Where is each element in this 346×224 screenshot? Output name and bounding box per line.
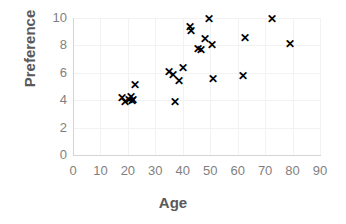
x-tick-label: 10: [87, 164, 113, 178]
data-point-marker: ✕: [266, 14, 277, 25]
gridline-horizontal: [73, 73, 320, 74]
data-point-marker: ✕: [177, 63, 188, 74]
data-point-marker: ✕: [173, 76, 184, 87]
x-tick-label: 50: [197, 164, 223, 178]
x-axis-line: [73, 155, 321, 156]
y-tick-label: 0: [45, 148, 67, 162]
x-tick-label: 40: [170, 164, 196, 178]
y-axis-title: Preference: [21, 0, 38, 99]
data-point-marker: ✕: [238, 71, 249, 82]
plot-area: [73, 18, 320, 155]
scatter-chart: Preference Age 0246810010203040506070809…: [0, 0, 346, 224]
x-tick-label: 0: [60, 164, 86, 178]
data-point-marker: ✕: [128, 95, 139, 106]
gridline-vertical: [320, 18, 321, 155]
x-axis-title: Age: [0, 194, 346, 211]
x-tick-label: 90: [307, 164, 333, 178]
data-point-marker: ✕: [129, 80, 140, 91]
y-tick-label: 6: [45, 66, 67, 80]
x-tick-label: 20: [115, 164, 141, 178]
data-point-marker: ✕: [284, 39, 295, 50]
x-tick-label: 60: [225, 164, 251, 178]
data-point-marker: ✕: [206, 40, 217, 51]
x-tick-label: 80: [280, 164, 306, 178]
y-tick-label: 8: [45, 38, 67, 52]
y-axis-line: [73, 18, 74, 156]
data-point-marker: ✕: [195, 45, 206, 56]
data-point-marker: ✕: [207, 74, 218, 85]
gridline-vertical: [100, 18, 101, 155]
gridline-vertical: [155, 18, 156, 155]
gridline-horizontal: [73, 100, 320, 101]
gridline-horizontal: [73, 128, 320, 129]
data-point-marker: ✕: [239, 33, 250, 44]
data-point-marker: ✕: [186, 26, 197, 37]
gridline-vertical: [265, 18, 266, 155]
x-tick-label: 30: [142, 164, 168, 178]
data-point-marker: ✕: [169, 97, 180, 108]
y-tick-label: 4: [45, 93, 67, 107]
data-point-marker: ✕: [203, 14, 214, 25]
gridline-horizontal: [73, 18, 320, 19]
x-tick-label: 70: [252, 164, 278, 178]
y-tick-label: 2: [45, 121, 67, 135]
y-tick-label: 10: [45, 11, 67, 25]
